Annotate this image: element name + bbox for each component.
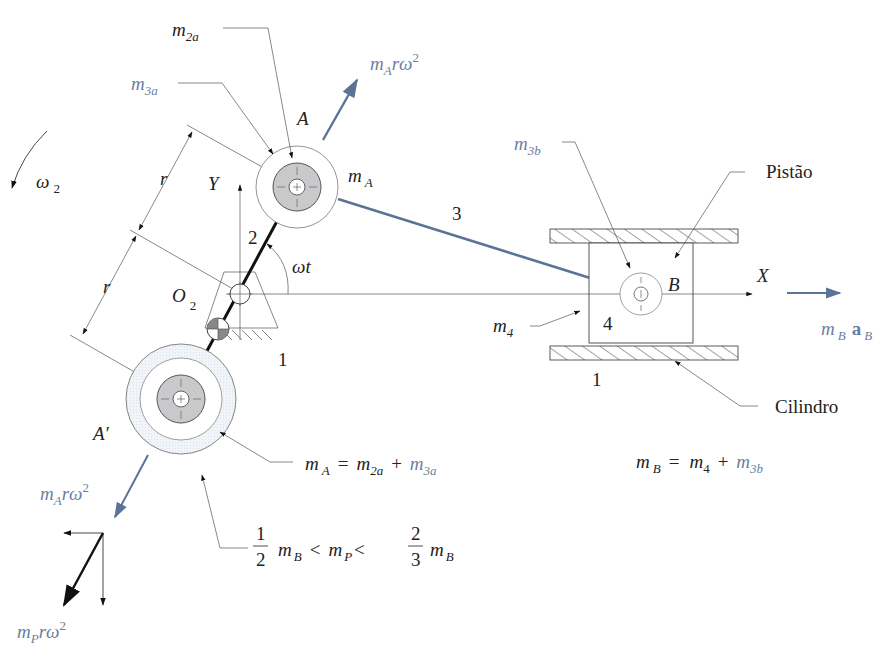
svg-text:mArω2: mArω2 [40,480,89,508]
svg-text:2: 2 [256,549,266,570]
svg-text:mA=m2a+m3a: mA=m2a+m3a [305,453,437,478]
link-4-label: 4 [603,313,613,334]
svg-text:m3a: m3a [131,73,158,98]
link-2-label: 2 [248,227,258,248]
y-axis: Y [208,173,240,340]
r-upper-label: r [160,168,168,189]
equation-ma: mA=m2a+m3a [220,432,437,478]
svg-text:mB: mB [430,539,454,564]
inertia-force-a-bottom: mArω2 [40,455,148,517]
leader-m4: m4 [493,311,580,340]
y-axis-label: Y [208,173,221,194]
equation-mb: mB=m4+m3b [636,451,764,476]
svg-text:m4: m4 [493,315,514,340]
point-b-label: B [668,274,680,295]
svg-text:m3b: m3b [514,133,541,158]
link-3-label: 3 [452,203,462,224]
counterweight-a-prime: A′ [91,344,236,454]
ground-link-1-right: 1 [592,369,602,390]
inertia-force-a-top: mArω2 [323,50,419,140]
leader-m3a: m3a [131,73,273,154]
ground-link-1-left: 1 [278,349,288,370]
svg-text:1: 1 [256,523,266,544]
svg-text:2: 2 [411,523,421,544]
equation-mp-range: 1 2 mB<mP< 2 3 mB [202,475,454,570]
point-a-prime-label: A′ [91,423,110,444]
angle-omega-t: ωt [267,244,311,294]
omega-t-label: ωt [292,256,311,277]
leader-m2a: m2a [172,19,292,158]
svg-text:mB=m4+m3b: mB=m4+m3b [636,451,764,476]
point-a-label: A [295,108,309,129]
center-of-mass-icon [207,318,229,340]
connecting-rod-3: 3 [338,199,622,288]
svg-text:mB<mP<: mB<mP< [278,539,365,564]
x-axis-label: X [756,265,770,286]
mass-a: A mA [256,108,373,228]
svg-text:mBaB: mBaB [821,318,872,343]
mass-a-label: mA [348,165,373,190]
svg-text:mArω2: mArω2 [370,50,419,78]
piston-4: B 4 [589,243,693,343]
inertia-force-piston: mBaB [787,293,872,343]
omega2-label: ω2 [36,171,60,196]
r-lower-label: r [103,276,111,297]
leader-piston: Pistão [675,161,812,258]
o2-label: O2 [172,285,196,313]
cylinder-label: Cilindro [775,396,838,417]
svg-text:3: 3 [411,549,421,570]
leader-cylinder: Cilindro [675,361,838,417]
rotation-arrow-omega2: ω2 [12,131,60,196]
slider-crank-mass-diagram: ω2 r r Y X O2 1 2 [0,0,894,656]
svg-text:m2a: m2a [172,19,199,44]
svg-text:mPrω2: mPrω2 [17,618,66,646]
piston-label: Pistão [766,161,812,182]
counterweight-force-components: mPrω2 [17,533,103,646]
